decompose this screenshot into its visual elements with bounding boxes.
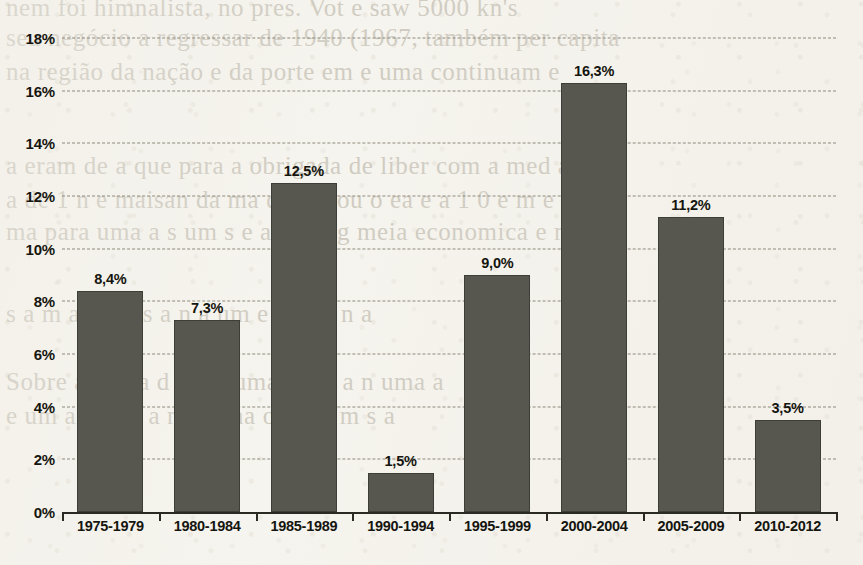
bar-value-label: 1,5% bbox=[352, 453, 449, 469]
chart-plot-area: 8,4%7,3%12,5%1,5%9,0%16,3%11,2%3,5% bbox=[62, 38, 836, 512]
x-axis-category-label: 2010-2012 bbox=[739, 518, 836, 534]
bar-value-label: 16,3% bbox=[546, 63, 643, 79]
x-axis-category-label: 2000-2004 bbox=[546, 518, 643, 534]
bar-slot: 9,0% bbox=[449, 38, 546, 512]
y-axis-tick-label: 8% bbox=[3, 293, 55, 310]
x-axis-category-label: 1985-1989 bbox=[256, 518, 353, 534]
bar bbox=[464, 275, 530, 512]
bar-slot: 3,5% bbox=[739, 38, 836, 512]
bar-value-label: 7,3% bbox=[159, 300, 256, 316]
bar-slot: 16,3% bbox=[546, 38, 643, 512]
x-axis-category-label: 1995-1999 bbox=[449, 518, 546, 534]
bar bbox=[368, 473, 434, 513]
bar-value-label: 3,5% bbox=[739, 400, 836, 416]
bar bbox=[755, 420, 821, 512]
x-axis-tick bbox=[836, 512, 838, 521]
bar-value-label: 9,0% bbox=[449, 255, 546, 271]
bar-slot: 1,5% bbox=[352, 38, 449, 512]
bar bbox=[271, 183, 337, 512]
y-axis-tick-label: 14% bbox=[3, 135, 55, 152]
x-axis-category-label: 2005-2009 bbox=[643, 518, 740, 534]
y-axis-tick-label: 10% bbox=[3, 240, 55, 257]
bar-value-label: 12,5% bbox=[256, 163, 353, 179]
bar-slot: 12,5% bbox=[256, 38, 353, 512]
y-axis-tick-label: 16% bbox=[3, 82, 55, 99]
bar-value-label: 11,2% bbox=[643, 197, 740, 213]
y-axis-tick-label: 6% bbox=[3, 346, 55, 363]
bar-slot: 7,3% bbox=[159, 38, 256, 512]
bar-value-label: 8,4% bbox=[62, 271, 159, 287]
y-axis-tick-label: 4% bbox=[3, 398, 55, 415]
bar-chart: 0%2%4%6%8%10%12%14%16%18% 8,4%7,3%12,5%1… bbox=[0, 0, 863, 565]
y-axis-tick-label: 2% bbox=[3, 451, 55, 468]
bar-slot: 11,2% bbox=[643, 38, 740, 512]
y-axis-tick-label: 18% bbox=[3, 30, 55, 47]
bar bbox=[174, 320, 240, 512]
scanned-page: nem foi himnalista, no pres. Vot e saw 5… bbox=[0, 0, 863, 565]
bar bbox=[77, 291, 143, 512]
y-axis-tick-label: 0% bbox=[3, 504, 55, 521]
x-axis-category-label: 1975-1979 bbox=[62, 518, 159, 534]
x-axis-category-label: 1990-1994 bbox=[352, 518, 449, 534]
bar-slot: 8,4% bbox=[62, 38, 159, 512]
y-axis-tick-label: 12% bbox=[3, 188, 55, 205]
bar bbox=[658, 217, 724, 512]
bar bbox=[561, 83, 627, 512]
x-axis-category-label: 1980-1984 bbox=[159, 518, 256, 534]
